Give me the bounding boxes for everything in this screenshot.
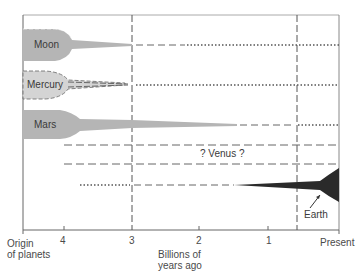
origin-label-line2: of planets bbox=[7, 249, 50, 260]
mercury-track bbox=[23, 71, 339, 99]
earth-track bbox=[80, 168, 339, 208]
tick-label-2: 2 bbox=[196, 235, 202, 246]
label-moon: Moon bbox=[34, 39, 59, 50]
mars-track bbox=[23, 110, 339, 139]
tick-label-present: Present bbox=[320, 237, 354, 248]
tick-label-4: 4 bbox=[60, 235, 66, 246]
origin-label-line1: Origin bbox=[7, 238, 34, 249]
axis-title-line1: Billions of bbox=[158, 249, 201, 260]
label-earth: Earth bbox=[304, 209, 328, 220]
label-mars: Mars bbox=[34, 119, 56, 130]
label-venus: ? Venus ? bbox=[200, 148, 244, 159]
axis-title-line2: years ago bbox=[158, 260, 202, 271]
tick-label-1: 1 bbox=[266, 235, 272, 246]
tick-label-3: 3 bbox=[129, 235, 135, 246]
moon-track bbox=[23, 29, 339, 61]
label-mercury: Mercury bbox=[27, 79, 63, 90]
